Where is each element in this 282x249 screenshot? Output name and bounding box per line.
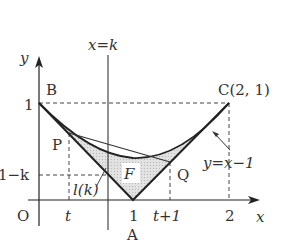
- x-tick-1: 1: [129, 207, 139, 225]
- point-C-label: C(2, 1): [218, 81, 270, 99]
- point-B-label: B: [46, 81, 57, 99]
- region-F-label: F: [123, 165, 135, 183]
- curve-label-pointer: [215, 134, 230, 150]
- curve-equation-label: y=x−1: [202, 154, 255, 172]
- segment-lk-label: l(k): [73, 181, 99, 199]
- origin-label: O: [17, 207, 29, 225]
- x-tick-2: 2: [225, 207, 235, 225]
- y-tick-1-minus-k: 1−k: [0, 166, 30, 184]
- y-tick-1: 1: [24, 96, 34, 114]
- point-P-label: P: [52, 136, 62, 154]
- line-xk-label: x=k: [88, 36, 118, 54]
- point-A-label: A: [126, 226, 138, 244]
- y-axis-label: y: [19, 49, 29, 67]
- pointer-arrow-icon: [212, 131, 219, 137]
- x-tick-t: t: [65, 207, 72, 225]
- diagram-canvas: y x x=k B C(2, 1) P Q A O 1 1−k t 1 t+1 …: [0, 0, 282, 249]
- x-axis-label: x: [256, 208, 265, 226]
- x-tick-t-plus-1: t+1: [153, 207, 181, 225]
- point-Q-label: Q: [177, 166, 189, 184]
